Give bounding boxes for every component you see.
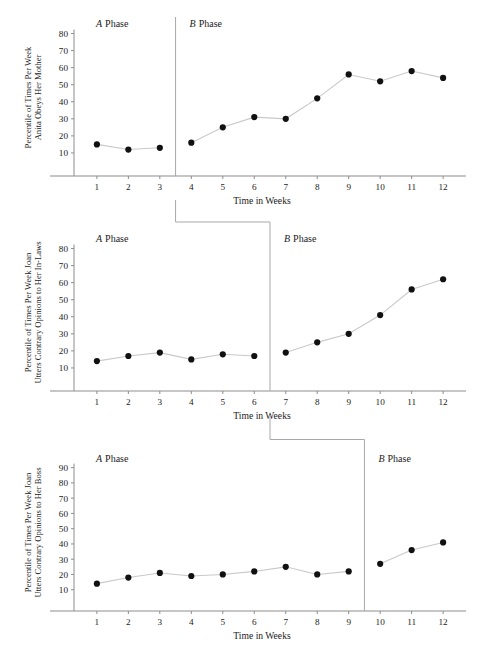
x-tick-label: 2 bbox=[126, 617, 131, 627]
y-tick-label: 10 bbox=[59, 585, 69, 595]
data-point bbox=[125, 353, 131, 359]
x-tick-label: 1 bbox=[95, 397, 100, 407]
x-tick-label: 3 bbox=[158, 617, 163, 627]
data-point bbox=[220, 351, 226, 357]
y-tick-label: 20 bbox=[59, 346, 69, 356]
x-tick-label: 5 bbox=[220, 182, 225, 192]
data-point bbox=[188, 356, 194, 362]
phase-letter: B bbox=[284, 233, 290, 244]
data-point bbox=[377, 561, 383, 567]
y-tick-label: 20 bbox=[59, 131, 69, 141]
panel-1: 1020304050607080123456789101112Time in W… bbox=[23, 17, 466, 206]
data-point bbox=[125, 574, 131, 580]
phase-word: Phase bbox=[105, 233, 129, 244]
data-point bbox=[440, 276, 446, 282]
data-point bbox=[157, 570, 163, 576]
y-tick-label: 40 bbox=[59, 97, 69, 107]
x-tick-label: 11 bbox=[407, 182, 416, 192]
phase-letter: A bbox=[95, 233, 103, 244]
data-point bbox=[346, 568, 352, 574]
x-tick-label: 3 bbox=[158, 182, 163, 192]
phase-word: Phase bbox=[105, 18, 129, 29]
data-point bbox=[314, 339, 320, 345]
panel-2: 1020304050607080123456789101112Time in W… bbox=[23, 232, 466, 421]
data-point bbox=[346, 71, 352, 77]
y-tick-label: 50 bbox=[59, 80, 69, 90]
data-point bbox=[94, 358, 100, 364]
x-tick-label: 4 bbox=[189, 397, 194, 407]
data-point bbox=[157, 145, 163, 151]
x-tick-label: 6 bbox=[252, 617, 257, 627]
x-axis-title-panel-1: Time in Weeks bbox=[233, 195, 291, 206]
y-tick-label: 50 bbox=[59, 295, 69, 305]
phase-word: Phase bbox=[199, 18, 223, 29]
y-tick-label: 40 bbox=[59, 312, 69, 322]
figure-canvas: 1020304050607080123456789101112Time in W… bbox=[0, 0, 479, 652]
y-tick-label: 60 bbox=[59, 63, 69, 73]
data-point bbox=[283, 116, 289, 122]
x-tick-label: 12 bbox=[439, 397, 449, 407]
data-point bbox=[220, 124, 226, 130]
panel-3: 102030405060708090123456789101112Time in… bbox=[23, 452, 466, 641]
x-tick-label: 3 bbox=[158, 397, 163, 407]
x-tick-label: 12 bbox=[439, 182, 449, 192]
phase-label-a-panel-1: APhase bbox=[95, 18, 129, 29]
y-axis-title-line-2: Anita Obeys Her Mother bbox=[33, 55, 43, 141]
data-point bbox=[377, 312, 383, 318]
x-tick-label: 2 bbox=[126, 182, 131, 192]
y-tick-label: 60 bbox=[59, 509, 69, 519]
y-axis-title-line-1: Percentile of Times Per Week Joan bbox=[23, 472, 33, 592]
x-tick-label: 9 bbox=[346, 397, 351, 407]
x-tick-label: 11 bbox=[407, 397, 416, 407]
data-point bbox=[188, 140, 194, 146]
phase-letter: A bbox=[95, 18, 103, 29]
y-tick-label: 50 bbox=[59, 524, 69, 534]
data-point bbox=[220, 571, 226, 577]
y-tick-label: 60 bbox=[59, 278, 69, 288]
y-tick-label: 70 bbox=[59, 494, 69, 504]
x-tick-label: 10 bbox=[376, 617, 386, 627]
x-tick-label: 7 bbox=[283, 397, 288, 407]
data-point bbox=[314, 571, 320, 577]
y-tick-label: 70 bbox=[59, 261, 69, 271]
y-axis-title-line-2: Utters Contrary Opinions to Her Boss bbox=[33, 467, 43, 598]
y-tick-label: 40 bbox=[59, 539, 69, 549]
data-point bbox=[440, 539, 446, 545]
x-axis-title-panel-3: Time in Weeks bbox=[233, 630, 291, 641]
series-line-b-phase bbox=[191, 71, 443, 143]
x-tick-label: 5 bbox=[220, 397, 225, 407]
x-tick-label: 7 bbox=[283, 617, 288, 627]
phase-label-a-panel-2: APhase bbox=[95, 233, 129, 244]
x-tick-label: 6 bbox=[252, 397, 257, 407]
data-point bbox=[251, 353, 257, 359]
data-point bbox=[409, 547, 415, 553]
y-tick-label: 10 bbox=[59, 148, 69, 158]
data-point bbox=[157, 349, 163, 355]
data-point bbox=[251, 568, 257, 574]
x-tick-label: 1 bbox=[95, 182, 100, 192]
phase-word: Phase bbox=[388, 453, 412, 464]
x-tick-label: 11 bbox=[407, 617, 416, 627]
data-point bbox=[251, 114, 257, 120]
data-point bbox=[377, 78, 383, 84]
x-tick-label: 9 bbox=[346, 182, 351, 192]
series-line-b-phase bbox=[286, 279, 443, 352]
multiple-baseline-figure: 1020304050607080123456789101112Time in W… bbox=[0, 0, 479, 652]
x-tick-label: 8 bbox=[315, 397, 320, 407]
phase-letter: B bbox=[190, 18, 196, 29]
phase-label-b-panel-3: BPhase bbox=[378, 453, 411, 464]
y-tick-label: 80 bbox=[59, 29, 69, 39]
y-axis-title-line-2: Utters Contrary Opinions to Her In-Laws bbox=[33, 241, 43, 384]
x-tick-label: 6 bbox=[252, 182, 257, 192]
y-axis-title-line-1: Percentile of Times Per Week bbox=[23, 46, 33, 148]
data-point bbox=[346, 331, 352, 337]
y-tick-label: 80 bbox=[59, 478, 69, 488]
data-point bbox=[440, 75, 446, 81]
x-tick-label: 4 bbox=[189, 617, 194, 627]
phase-letter: A bbox=[95, 453, 103, 464]
y-tick-label: 80 bbox=[59, 244, 69, 254]
y-axis-title-line-1: Percentile of Times Per Week Joan bbox=[23, 252, 33, 372]
y-tick-label: 90 bbox=[59, 463, 69, 473]
data-point bbox=[283, 349, 289, 355]
x-tick-label: 10 bbox=[376, 182, 386, 192]
